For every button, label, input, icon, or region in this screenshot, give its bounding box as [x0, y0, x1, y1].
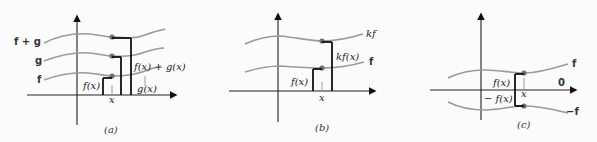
label-f: f	[572, 58, 577, 69]
curve-f-plus-g	[44, 29, 165, 43]
curve-kf	[245, 34, 363, 44]
label-f: f	[369, 56, 374, 67]
label-kf: kf	[366, 28, 378, 39]
label-fx: f(x)	[290, 76, 308, 87]
curve-g	[44, 48, 164, 61]
curve-f	[245, 62, 364, 72]
caption-c: (c)	[517, 119, 531, 130]
label-fx-plus-gx: f(x) + g(x)	[133, 61, 186, 72]
label-neg-fx: − f(x)	[484, 93, 513, 104]
label-fx: f(x)	[82, 80, 100, 91]
label-x: x	[319, 92, 325, 103]
function-operations-diagram: f + g g f f(x) x g(x) f(x) + g(x) (a) kf…	[0, 0, 597, 142]
label-zero: 0	[558, 77, 565, 88]
label-x: x	[521, 88, 527, 99]
caption-a: (a)	[104, 124, 118, 135]
label-f: f	[37, 74, 42, 85]
label-f-plus-g: f + g	[14, 36, 41, 47]
label-g: g	[35, 55, 42, 66]
label-x: x	[109, 94, 115, 105]
label-kfx: kf(x)	[336, 51, 359, 62]
label-gx: g(x)	[137, 83, 157, 94]
curve-f	[448, 64, 568, 78]
label-neg-f: −f	[566, 106, 579, 117]
panel-b: kf f f(x) kf(x) x (b)	[229, 14, 378, 133]
label-fx: f(x)	[492, 77, 510, 88]
caption-b: (b)	[315, 122, 329, 133]
panel-a: f + g g f f(x) x g(x) f(x) + g(x) (a)	[14, 16, 186, 135]
panel-c: f −f 0 f(x) − f(x) x (c)	[430, 14, 579, 130]
